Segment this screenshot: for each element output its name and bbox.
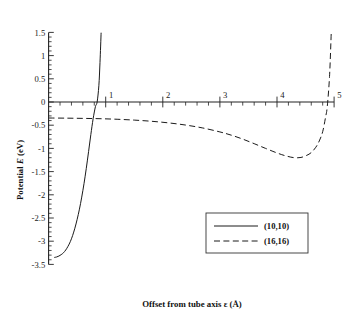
y-tick-label: 1.5	[34, 28, 45, 38]
x-tick-label: 5	[337, 90, 341, 100]
x-axis-title-text: Offset from tube axis ε (Å)	[142, 299, 242, 309]
x-tick-label: 3	[223, 90, 227, 100]
x-tick-label: 2	[166, 90, 170, 100]
y-tick-label: -3.5	[32, 260, 46, 270]
y-tick-label: -1.5	[32, 167, 46, 177]
curve-1616	[49, 32, 332, 157]
y-tick-label: 0	[41, 97, 45, 107]
curve-1010	[54, 32, 101, 257]
y-axis-title-text2: (eV)	[15, 140, 25, 158]
y-tick-label: -1	[38, 144, 45, 154]
y-tick-label: -3	[38, 236, 45, 246]
potential-energy-line-chart: Potential E (eV) Offset from tube axis ε…	[0, 0, 364, 326]
svg-text:Potential E (eV): Potential E (eV)	[15, 140, 25, 200]
y-tick-label: -0.5	[32, 120, 46, 130]
legend-label-1010: (10,10)	[264, 221, 289, 231]
legend: (10,10)(16,16)	[206, 213, 308, 253]
y-tick-label: 1	[41, 51, 45, 61]
y-axis-title-text1: Potential	[15, 164, 25, 200]
y-tick-label: -2.5	[32, 213, 46, 223]
x-tick-label: 4	[280, 90, 285, 100]
x-axis-title: Offset from tube axis ε (Å)	[142, 299, 242, 309]
x-tick-label: 1	[109, 90, 113, 100]
y-tick-label: -2	[38, 190, 45, 200]
legend-box	[206, 213, 308, 253]
y-tick-label: 0.5	[34, 74, 45, 84]
legend-label-1616: (16,16)	[264, 236, 289, 246]
chart-figure: Potential E (eV) Offset from tube axis ε…	[0, 0, 364, 326]
y-axis-title: Potential E (eV)	[15, 140, 25, 200]
